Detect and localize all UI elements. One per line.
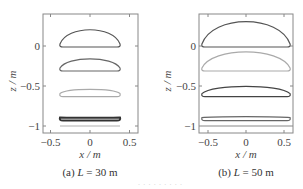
axes-frame-b: [199, 14, 293, 133]
faint-footer-text: · · · · · · · · ·: [138, 179, 183, 189]
figure: −0.500.50−0.5−1 z / m x / m (a) L = 30 m…: [0, 0, 303, 189]
caption-b: (b) L = 50 m: [218, 166, 274, 179]
xlabel-a: x / m: [78, 148, 100, 160]
x-tick-label: −0.5: [198, 136, 218, 148]
ticks-a: −0.500.50−0.5−1: [20, 14, 138, 148]
y-tick-label: −0.5: [176, 80, 196, 92]
axes-frame-a: [43, 14, 138, 133]
caption-a: (a) L = 30 m: [62, 166, 118, 179]
ylabel-b: z / m: [161, 71, 173, 93]
profile-curve: [202, 117, 291, 121]
y-tick-label: −1: [28, 120, 40, 132]
x-tick-label: 0: [87, 136, 93, 148]
y-tick-label: −1: [184, 120, 196, 132]
x-tick-label: 0.5: [123, 136, 137, 148]
ticks-b: −0.500.50−0.5−1: [176, 14, 293, 148]
x-tick-label: 0.5: [277, 136, 291, 148]
profile-curve: [60, 89, 120, 96]
plot-area-a: [60, 30, 120, 126]
panel-b: −0.500.50−0.5−1 z / m x / m (b) L = 50 m: [161, 14, 293, 179]
profile-curve: [202, 22, 291, 47]
x-tick-label: 0: [243, 136, 249, 148]
profile-curve: [60, 118, 120, 121]
y-tick-label: 0: [191, 40, 197, 52]
profile-curve: [202, 52, 291, 71]
y-tick-label: −0.5: [20, 80, 40, 92]
x-tick-label: −0.5: [41, 136, 61, 148]
profile-curve: [60, 59, 120, 71]
panel-a: −0.500.50−0.5−1 z / m x / m (a) L = 30 m: [6, 14, 138, 179]
profile-curve: [202, 86, 291, 96]
xlabel-b: x / m: [234, 148, 256, 160]
profile-curve: [60, 30, 120, 47]
y-tick-label: 0: [35, 40, 41, 52]
plot-area-b: [202, 22, 291, 126]
ylabel-a: z / m: [6, 71, 18, 93]
